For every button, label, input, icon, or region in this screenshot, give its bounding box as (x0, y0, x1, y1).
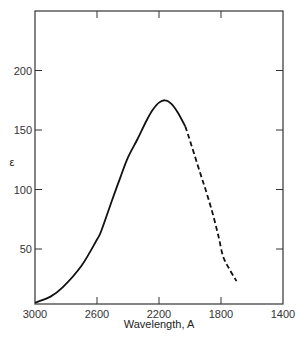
data-series (35, 100, 237, 302)
absorption-spectrum-chart: 30002600220018001400 50100150200 Wavelen… (0, 0, 305, 337)
x-axis-ticks: 30002600220018001400 (23, 11, 295, 320)
x-tick-label: 1400 (271, 308, 295, 320)
curve-measured (35, 100, 185, 302)
y-axis-label: ε (10, 156, 15, 168)
x-axis-label: Wavelength, A (124, 318, 195, 330)
plot-frame (35, 11, 283, 304)
y-tick-label: 100 (14, 184, 32, 196)
x-tick-label: 3000 (23, 308, 47, 320)
y-tick-label: 150 (14, 124, 32, 136)
y-tick-label: 200 (14, 65, 32, 77)
y-axis-ticks: 50100150200 (14, 65, 283, 256)
x-tick-label: 2600 (85, 308, 109, 320)
curve-extrapolated (185, 126, 236, 281)
x-tick-label: 1800 (209, 308, 233, 320)
y-tick-label: 50 (20, 243, 32, 255)
